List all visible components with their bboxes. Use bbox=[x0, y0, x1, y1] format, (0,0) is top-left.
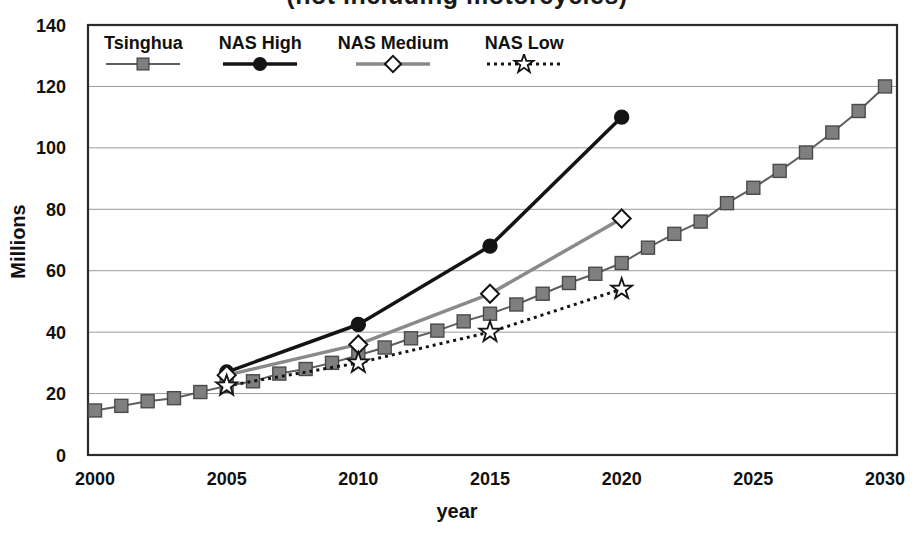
marker-star-nas-low bbox=[611, 278, 632, 298]
marker-square-tsinghua bbox=[536, 287, 549, 300]
marker-square-tsinghua bbox=[800, 146, 813, 159]
marker-star-nas-low bbox=[480, 321, 501, 341]
marker-square-tsinghua bbox=[115, 399, 128, 412]
marker-square-tsinghua bbox=[563, 277, 576, 290]
x-tick-label: 2015 bbox=[470, 469, 510, 489]
x-tick-label: 2025 bbox=[733, 469, 773, 489]
marker-square-tsinghua bbox=[273, 367, 286, 380]
marker-circle-nas-high bbox=[615, 110, 629, 124]
marker-square-tsinghua bbox=[826, 126, 839, 139]
legend-item-nas-high: NAS High bbox=[219, 33, 302, 74]
marker-square-tsinghua bbox=[484, 307, 497, 320]
marker-square-tsinghua bbox=[747, 181, 760, 194]
marker-circle-nas-high bbox=[351, 317, 365, 331]
legend-sample-nas-medium bbox=[354, 54, 432, 74]
y-tick-label: 0 bbox=[56, 446, 66, 466]
legend-item-nas-medium: NAS Medium bbox=[338, 33, 449, 74]
legend-label-tsinghua: Tsinghua bbox=[104, 33, 183, 53]
marker-square-tsinghua bbox=[510, 298, 523, 311]
marker-diamond-nas-medium bbox=[385, 56, 401, 72]
y-tick-label: 120 bbox=[36, 77, 66, 97]
marker-square-tsinghua bbox=[89, 404, 102, 417]
marker-star-nas-low bbox=[515, 54, 534, 72]
marker-square-tsinghua bbox=[137, 58, 149, 70]
marker-square-tsinghua bbox=[642, 241, 655, 254]
legend-sample-tsinghua bbox=[104, 54, 182, 74]
marker-square-tsinghua bbox=[194, 386, 207, 399]
y-tick-label: 80 bbox=[46, 200, 66, 220]
y-tick-label: 60 bbox=[46, 261, 66, 281]
x-tick-label: 2020 bbox=[602, 469, 642, 489]
marker-star-nas-low bbox=[348, 352, 369, 372]
marker-square-tsinghua bbox=[721, 197, 734, 210]
chart-figure: (not including motorcycles) Millions 020… bbox=[0, 0, 914, 536]
y-tick-label: 20 bbox=[46, 384, 66, 404]
x-axis-label: year bbox=[0, 500, 914, 523]
marker-square-tsinghua bbox=[457, 315, 470, 328]
marker-square-tsinghua bbox=[431, 324, 444, 337]
marker-square-tsinghua bbox=[378, 341, 391, 354]
marker-square-tsinghua bbox=[694, 215, 707, 228]
marker-square-tsinghua bbox=[852, 105, 865, 118]
marker-square-tsinghua bbox=[589, 267, 602, 280]
legend-label-nas-low: NAS Low bbox=[485, 33, 564, 53]
plot-area: 0204060801001201402000200520102015202020… bbox=[0, 0, 914, 536]
legend-item-nas-low: NAS Low bbox=[485, 33, 564, 74]
legend-label-nas-medium: NAS Medium bbox=[338, 33, 449, 53]
marker-square-tsinghua bbox=[405, 332, 418, 345]
marker-diamond-nas-medium bbox=[613, 210, 631, 228]
marker-square-tsinghua bbox=[668, 227, 681, 240]
x-tick-label: 2010 bbox=[338, 469, 378, 489]
marker-diamond-nas-medium bbox=[481, 285, 499, 303]
y-tick-label: 40 bbox=[46, 323, 66, 343]
y-tick-label: 100 bbox=[36, 138, 66, 158]
marker-square-tsinghua bbox=[879, 80, 892, 93]
legend-sample-nas-low bbox=[485, 54, 563, 74]
y-tick-label: 140 bbox=[36, 16, 66, 36]
legend-sample-nas-high bbox=[221, 54, 299, 74]
legend: Tsinghua NAS High NAS Medium NAS Low bbox=[104, 33, 564, 74]
marker-square-tsinghua bbox=[141, 395, 154, 408]
legend-item-tsinghua: Tsinghua bbox=[104, 33, 183, 74]
x-tick-label: 2000 bbox=[75, 469, 115, 489]
marker-square-tsinghua bbox=[773, 164, 786, 177]
x-tick-label: 2030 bbox=[865, 469, 905, 489]
marker-circle-nas-high bbox=[483, 239, 497, 253]
marker-circle-nas-high bbox=[254, 58, 267, 71]
legend-label-nas-high: NAS High bbox=[219, 33, 302, 53]
marker-square-tsinghua bbox=[168, 392, 181, 405]
marker-square-tsinghua bbox=[615, 257, 628, 270]
x-tick-label: 2005 bbox=[207, 469, 247, 489]
